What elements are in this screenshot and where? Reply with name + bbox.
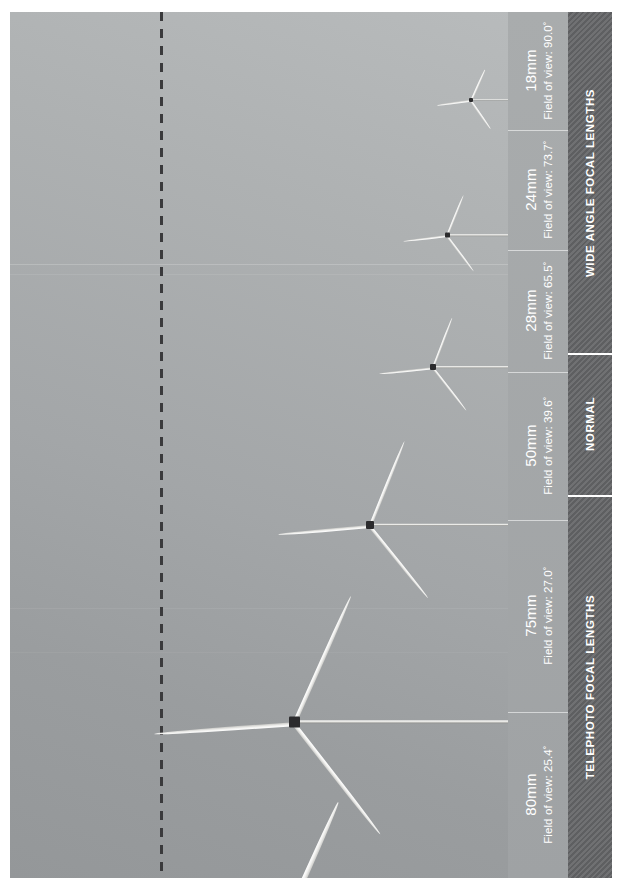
focal-label-80mm: 80mm Field of view: 25.4˚ (508, 712, 568, 878)
turbine-nacelle (366, 521, 374, 529)
category-band: WIDE ANGLE FOCAL LENGTHS NORMAL TELEPHOT… (568, 12, 612, 878)
turbine-nacelle (289, 717, 300, 728)
category-label: TELEPHOTO FOCAL LENGTHS (584, 594, 596, 779)
turbine-blade (292, 595, 353, 725)
category-wide-angle: WIDE ANGLE FOCAL LENGTHS (568, 12, 612, 353)
field-of-view-value: Field of view: 65.5˚ (540, 262, 554, 361)
turbine-blade (470, 100, 491, 129)
field-of-view-value: Field of view: 27.0˚ (540, 567, 554, 666)
category-label: WIDE ANGLE FOCAL LENGTHS (584, 88, 596, 276)
turbine-blade (446, 235, 474, 271)
focal-length-value: 24mm (521, 141, 540, 240)
turbine-nacelle (445, 233, 450, 238)
focal-length-value: 28mm (521, 262, 540, 361)
focal-length-label-strip: 18mm Field of view: 90.0˚ 24mm Field of … (508, 12, 568, 878)
field-of-view-value: Field of view: 25.4˚ (540, 746, 554, 845)
focal-length-value: 18mm (521, 22, 540, 121)
turbine-nacelle (469, 98, 473, 102)
focal-length-value: 50mm (521, 397, 540, 496)
turbine-blade (432, 317, 453, 368)
focal-length-value: 80mm (521, 746, 540, 845)
vertical-dashed-reference-line (160, 12, 163, 878)
focal-label-28mm: 28mm Field of view: 65.5˚ (508, 250, 568, 372)
category-normal: NORMAL (568, 353, 612, 495)
field-of-view-value: Field of view: 39.6˚ (540, 397, 554, 496)
focal-label-18mm: 18mm Field of view: 90.0˚ (508, 12, 568, 130)
focal-label-24mm: 24mm Field of view: 73.7˚ (508, 130, 568, 250)
focal-label-75mm: 75mm Field of view: 27.0˚ (508, 520, 568, 712)
figure-root: 18mm Field of view: 90.0˚ 24mm Field of … (0, 0, 622, 890)
field-of-view-value: Field of view: 73.7˚ (540, 141, 554, 240)
turbine-blade (369, 441, 406, 527)
turbine-blade (446, 195, 464, 237)
photo-plate: 18mm Field of view: 90.0˚ 24mm Field of … (10, 12, 612, 878)
turbine-nacelle (430, 364, 436, 370)
field-of-view-value: Field of view: 90.0˚ (540, 22, 554, 121)
category-telephoto: TELEPHOTO FOCAL LENGTHS (568, 495, 612, 878)
turbine-blade (275, 801, 340, 878)
focal-length-value: 75mm (521, 567, 540, 666)
turbine-blade (432, 367, 467, 411)
category-label: NORMAL (584, 397, 596, 451)
focal-label-50mm: 50mm Field of view: 39.6˚ (508, 372, 568, 520)
turbine-blade (470, 69, 485, 101)
